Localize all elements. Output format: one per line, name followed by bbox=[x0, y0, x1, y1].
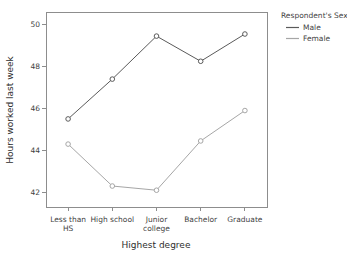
data-point-female bbox=[110, 184, 115, 189]
data-point-male bbox=[198, 59, 203, 64]
line-chart: Less thanHSHigh schoolJuniorcollegeBache… bbox=[0, 0, 347, 258]
legend: Respondent's SexMaleFemale bbox=[281, 11, 347, 43]
x-tick-label-line2: college bbox=[143, 224, 170, 233]
legend-label-female: Female bbox=[303, 34, 331, 43]
y-tick-label: 46 bbox=[30, 104, 40, 113]
y-axis-ticks bbox=[42, 25, 46, 193]
x-tick-label-line2: HS bbox=[63, 224, 74, 233]
chart-container: Less thanHSHigh schoolJuniorcollegeBache… bbox=[0, 0, 347, 258]
x-tick-label: High school bbox=[90, 215, 134, 224]
x-axis-ticks bbox=[68, 207, 245, 211]
x-tick-label: Junior bbox=[145, 215, 168, 224]
data-point-female bbox=[243, 108, 248, 113]
y-tick-label: 44 bbox=[30, 146, 40, 155]
y-tick-label: 50 bbox=[30, 20, 40, 29]
data-point-female bbox=[154, 188, 159, 193]
x-tick-label: Graduate bbox=[227, 215, 263, 224]
x-tick-label: Less than bbox=[50, 215, 86, 224]
series-group bbox=[66, 32, 247, 193]
data-point-male bbox=[154, 34, 159, 39]
y-tick-label: 48 bbox=[30, 62, 40, 71]
data-point-female bbox=[66, 142, 71, 147]
data-point-female bbox=[198, 139, 203, 144]
series-line-male bbox=[68, 34, 245, 119]
legend-title: Respondent's Sex bbox=[281, 11, 347, 20]
y-axis-title: Hours worked last week bbox=[5, 55, 15, 163]
data-point-male bbox=[243, 32, 248, 37]
data-point-male bbox=[66, 117, 71, 122]
x-axis-tick-labels: Less thanHSHigh schoolJuniorcollegeBache… bbox=[50, 215, 263, 233]
series-line-female bbox=[68, 111, 245, 191]
x-tick-label: Bachelor bbox=[184, 215, 218, 224]
data-point-male bbox=[110, 77, 115, 82]
y-tick-label: 42 bbox=[30, 188, 40, 197]
legend-label-male: Male bbox=[303, 23, 321, 32]
x-axis-title: Highest degree bbox=[122, 240, 191, 250]
y-axis-tick-labels: 4244464850 bbox=[30, 20, 40, 197]
